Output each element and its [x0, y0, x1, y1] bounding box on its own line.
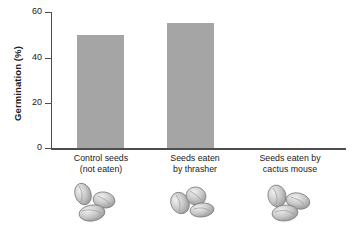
x-category-label-line2: by thrasher	[140, 164, 250, 175]
x-category-label-cactus-mouse: Seeds eaten by cactus mouse	[235, 153, 345, 175]
y-tick-label-20: 20	[2, 98, 42, 107]
x-category-label-line1: Seeds eaten	[170, 153, 219, 163]
x-axis-line	[51, 148, 346, 150]
y-axis-line	[51, 12, 52, 149]
y-tick-label-40: 40	[2, 53, 42, 62]
y-tick-mark-40	[45, 58, 52, 59]
y-axis-title: Germination (%)	[12, 24, 23, 144]
y-tick-label-0: 0	[2, 143, 42, 152]
x-category-label-line1: Seeds eaten by	[259, 153, 320, 163]
germination-bar-chart: Germination (%) 60 40 20 0 Control seeds…	[0, 0, 353, 231]
bar-control-seeds	[77, 35, 124, 148]
x-category-label-line1: Control seeds	[74, 153, 128, 163]
y-tick-mark-60	[45, 12, 52, 13]
y-tick-mark-20	[45, 103, 52, 104]
y-tick-mark-0	[45, 148, 52, 149]
x-category-label-line2: cactus mouse	[235, 164, 345, 175]
seed-cluster-icon-cactus-mouse	[235, 181, 345, 227]
x-category-label-thrasher: Seeds eaten by thrasher	[140, 153, 250, 175]
seed-cluster-icon-thrasher	[140, 181, 250, 227]
bar-seeds-eaten-thrasher	[167, 23, 214, 148]
y-tick-label-60: 60	[2, 7, 42, 16]
